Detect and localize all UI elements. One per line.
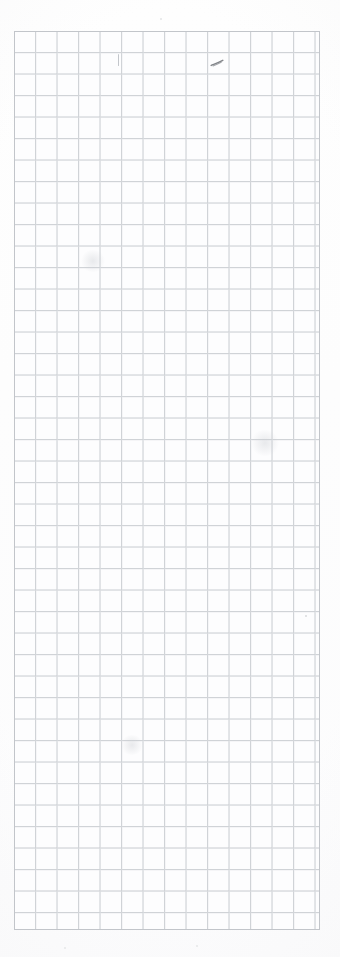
grid-paper-page [0, 0, 340, 957]
scan-speck [64, 947, 66, 949]
scan-speck [160, 18, 162, 20]
grid-sheet [14, 31, 320, 930]
scan-speck [196, 945, 198, 947]
grid-border-frame [14, 31, 320, 930]
